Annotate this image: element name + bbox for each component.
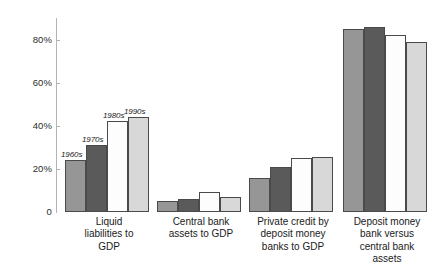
- bar-1960s-3[interactable]: [343, 29, 364, 212]
- y-tick-label: 80%: [33, 34, 52, 45]
- y-tick-0: 0: [0, 206, 52, 218]
- series-annotation-1980s: 1980s: [103, 111, 124, 120]
- bar-1960s-0[interactable]: [65, 160, 86, 212]
- x-axis-label-0: Liquid liabilities to GDP: [57, 216, 161, 253]
- series-annotation-1990s: 1990s: [124, 107, 145, 116]
- y-tick-label: 60%: [33, 77, 52, 88]
- bar-1990s-3[interactable]: [406, 42, 427, 212]
- bar-groups: 1960s1970s1980s1990s: [57, 18, 439, 212]
- bar-1990s-1[interactable]: [220, 197, 241, 212]
- bar-group-2: [249, 18, 333, 212]
- bar-chart: 020%40%60%80% 1960s1970s1980s1990s Liqui…: [0, 0, 443, 273]
- bar-1970s-3[interactable]: [364, 27, 385, 212]
- bar-group-1: [157, 18, 241, 212]
- bar-1980s-0[interactable]: [107, 121, 128, 212]
- bar-1990s-2[interactable]: [312, 157, 333, 212]
- bar-1960s-2[interactable]: [249, 178, 270, 212]
- bar-1980s-1[interactable]: [199, 192, 220, 212]
- series-annotation-1960s: 1960s: [61, 150, 82, 159]
- bar-1980s-2[interactable]: [291, 158, 312, 212]
- bar-1970s-2[interactable]: [270, 167, 291, 212]
- x-axis-label-2: Private credit by deposit money banks to…: [237, 216, 349, 253]
- y-tick-label: 0: [47, 206, 52, 217]
- bar-1990s-0[interactable]: [128, 117, 149, 212]
- bar-1960s-1[interactable]: [157, 201, 178, 212]
- y-tick-label: 20%: [33, 163, 52, 174]
- bar-group-0: 1960s1970s1980s1990s: [65, 18, 149, 212]
- bar-1970s-0[interactable]: [86, 145, 107, 212]
- bar-1980s-3[interactable]: [385, 35, 406, 212]
- y-tick-40: 40%: [0, 120, 52, 132]
- y-tick-60: 60%: [0, 77, 52, 89]
- bar-group-3: [343, 18, 427, 212]
- series-annotation-1970s: 1970s: [82, 135, 103, 144]
- y-tick-80: 80%: [0, 34, 52, 46]
- x-axis-labels: Liquid liabilities to GDPCentral bank as…: [57, 216, 443, 273]
- y-tick-label: 40%: [33, 120, 52, 131]
- x-axis-label-3: Deposit money bank versus central bank a…: [337, 216, 437, 266]
- y-tick-20: 20%: [0, 163, 52, 175]
- bar-1970s-1[interactable]: [178, 199, 199, 212]
